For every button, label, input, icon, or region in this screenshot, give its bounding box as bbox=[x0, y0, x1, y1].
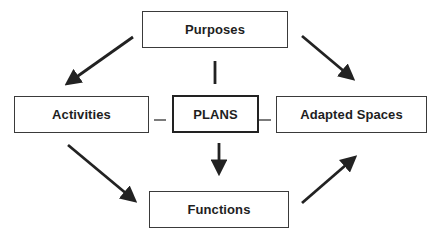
node-plans-label: PLANS bbox=[193, 107, 238, 122]
arrow-purposes-to-adapted-spaces bbox=[302, 36, 352, 78]
node-plans: PLANS bbox=[172, 95, 259, 133]
node-adapted-spaces: Adapted Spaces bbox=[276, 96, 427, 133]
node-functions: Functions bbox=[149, 191, 289, 228]
node-purposes-label: Purposes bbox=[185, 22, 245, 37]
arrow-functions-to-adapted-spaces bbox=[302, 158, 354, 203]
arrow-activities-to-functions bbox=[68, 145, 134, 200]
node-activities-label: Activities bbox=[52, 107, 111, 122]
node-purposes: Purposes bbox=[142, 11, 288, 48]
node-functions-label: Functions bbox=[187, 202, 250, 217]
diagram-canvas: Purposes Activities PLANS Adapted Spaces… bbox=[0, 0, 436, 240]
arrow-purposes-to-activities bbox=[68, 37, 133, 83]
node-activities: Activities bbox=[14, 96, 149, 133]
node-adapted-spaces-label: Adapted Spaces bbox=[300, 107, 403, 122]
